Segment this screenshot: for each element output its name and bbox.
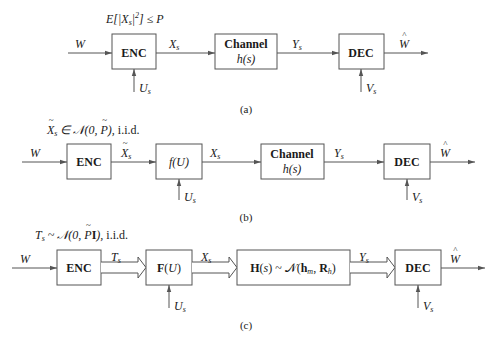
signal-ys-c: Ys	[359, 251, 369, 265]
channel-sublabel-b: h(s)	[283, 163, 302, 175]
mapper-label-c: F(U)	[157, 262, 181, 274]
diagram-c	[12, 250, 485, 308]
side-info-vs-b: Vs	[412, 191, 422, 205]
dec-label-c: DEC	[405, 262, 430, 274]
diagram-b	[22, 144, 475, 200]
caption-b: (b)	[240, 212, 253, 223]
side-info-vs-c: Vs	[423, 300, 433, 314]
enc-label-a: ENC	[121, 47, 146, 59]
caption-a: (a)	[240, 104, 252, 115]
output-label-what-c: W	[450, 253, 460, 265]
caption-c: (c)	[240, 320, 252, 331]
channel-label-b: Channel	[270, 148, 313, 160]
mapper-label-b: f(U)	[169, 156, 189, 168]
channel-label-c: H(s) ~ 𝒩(hm, Rh)	[250, 262, 336, 276]
side-info-us-c: Us	[174, 300, 186, 314]
power-constraint-a: E[|Xs|2] ≤ P	[106, 12, 164, 27]
input-label-w-c: W	[20, 253, 30, 265]
enc-label-c: ENC	[66, 262, 91, 274]
output-label-what-a: W	[399, 38, 409, 50]
enc-label-b: ENC	[76, 156, 101, 168]
side-info-us-a: Us	[139, 82, 151, 96]
double-arrow-mapper-to-channel-c	[192, 257, 237, 278]
input-label-w-a: W	[75, 38, 85, 50]
signal-xtilde-b: Xs	[121, 147, 131, 161]
signal-ys-a: Ys	[292, 38, 302, 52]
input-label-w-b: W	[30, 147, 40, 159]
double-arrow-enc-to-mapper-c	[101, 257, 146, 278]
side-info-us-b: Us	[184, 191, 196, 205]
constraint-b: Xs ∈ 𝒩(0, P), i.i.d.	[47, 124, 139, 138]
dec-label-a: DEC	[348, 47, 373, 59]
double-arrow-channel-to-dec-c	[350, 257, 395, 278]
output-label-what-b: W	[440, 147, 450, 159]
signal-xs-c: Xs	[201, 251, 211, 265]
side-info-vs-a: Vs	[366, 82, 376, 96]
signal-ts-c: Ts	[111, 251, 121, 265]
dec-label-b: DEC	[394, 156, 419, 168]
constraint-c: Ts ~ 𝒩(0, PI), i.i.d.	[35, 229, 128, 243]
signal-xs-b: Xs	[210, 147, 220, 161]
channel-label-a: Channel	[224, 38, 267, 50]
channel-sublabel-a: h(s)	[237, 53, 256, 65]
signal-ys-b: Ys	[334, 147, 344, 161]
signal-xs-a: Xs	[169, 38, 179, 52]
